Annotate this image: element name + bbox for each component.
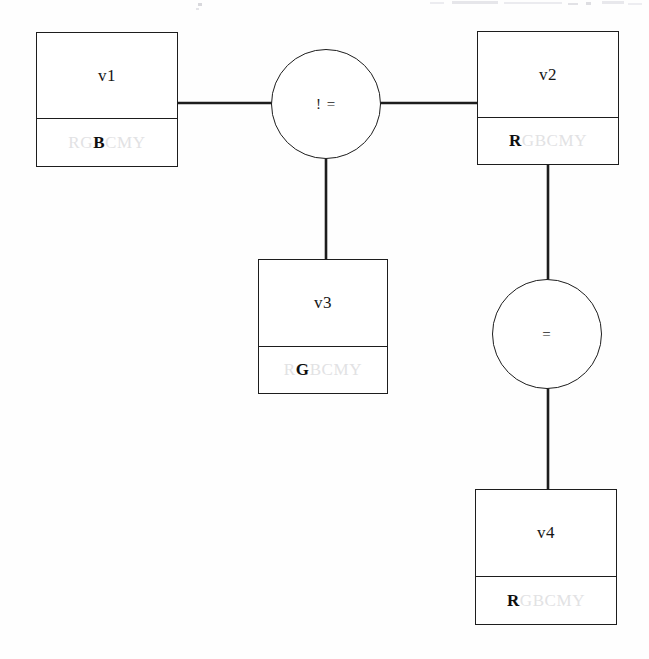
variable-node-v3[interactable]: v3 RGBCMY xyxy=(258,259,388,394)
domain-suffix: BCMY xyxy=(310,360,362,379)
domain-prefix: RG xyxy=(68,133,93,152)
variable-label: v2 xyxy=(539,65,557,85)
domain-selected-value: G xyxy=(296,360,310,379)
variable-label: v4 xyxy=(537,523,555,543)
domain-suffix: GBCMY xyxy=(520,591,585,610)
variable-name-cell: v4 xyxy=(476,490,616,577)
constraint-label: ! = xyxy=(316,96,336,113)
domain-strip: RGBCMY xyxy=(68,133,145,153)
variable-node-v1[interactable]: v1 RGBCMY xyxy=(36,32,178,167)
domain-strip: RGBCMY xyxy=(509,131,587,151)
domain-suffix: CMY xyxy=(105,133,146,152)
variable-label: v3 xyxy=(314,293,332,313)
variable-node-v4[interactable]: v4 RGBCMY xyxy=(475,489,617,625)
domain-prefix: R xyxy=(284,360,296,379)
variable-label: v1 xyxy=(98,66,116,86)
variable-node-v2[interactable]: v2 RGBCMY xyxy=(477,31,619,165)
domain-strip: RGBCMY xyxy=(284,360,362,380)
domain-selected-value: R xyxy=(507,591,520,610)
constraint-label: = xyxy=(542,326,551,343)
domain-suffix: GBCMY xyxy=(522,131,587,150)
variable-domain-cell: RGBCMY xyxy=(37,119,177,166)
variable-domain-cell: RGBCMY xyxy=(259,347,387,393)
variable-domain-cell: RGBCMY xyxy=(478,118,618,164)
variable-name-cell: v1 xyxy=(37,33,177,119)
domain-selected-value: R xyxy=(509,131,522,150)
variable-name-cell: v3 xyxy=(259,260,387,347)
variable-domain-cell: RGBCMY xyxy=(476,577,616,624)
constraint-node-not-equal[interactable]: ! = xyxy=(271,49,381,159)
constraint-node-equal[interactable]: = xyxy=(492,279,602,389)
variable-name-cell: v2 xyxy=(478,32,618,118)
domain-selected-value: B xyxy=(93,133,105,152)
domain-strip: RGBCMY xyxy=(507,591,585,611)
diagram-canvas: v1 RGBCMY v2 RGBCMY v3 RGBCMY v4 RGBCMY xyxy=(0,0,649,659)
